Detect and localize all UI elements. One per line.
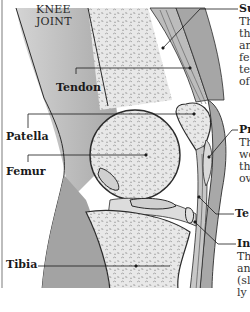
callout-suprapatellar-text: Ththanfeteof xyxy=(239,16,250,88)
prepatellar-bursa xyxy=(203,140,212,186)
diagram-title: KNEE JOINT xyxy=(36,4,72,28)
infrapatellar-bursa xyxy=(185,208,193,223)
label-femur: Femur xyxy=(6,166,46,178)
callout-prepatellar-text: Thwothov xyxy=(239,137,250,185)
callout-infrapatellar-heading: In xyxy=(237,238,250,250)
callout-prepatellar-heading: Pr xyxy=(239,124,250,136)
callout-infrapatellar-text: Than(slly xyxy=(237,251,250,299)
femur-shaft xyxy=(88,8,172,110)
label-tibia: Tibia xyxy=(6,259,37,271)
callout-suprapatellar-heading: Su xyxy=(239,3,250,15)
callout-tendon-heading: Te xyxy=(235,208,249,220)
label-tendon: Tendon xyxy=(56,82,101,94)
knee-joint-diagram: KNEE JOINT Tendon Patella Femur Tibia Su… xyxy=(0,0,250,312)
label-patella: Patella xyxy=(6,131,49,143)
knee-illustration xyxy=(0,0,250,312)
title-line-2: JOINT xyxy=(36,16,72,28)
meniscus-rear xyxy=(130,198,176,209)
